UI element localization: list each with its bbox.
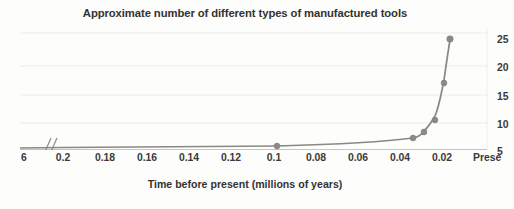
series-line-tool-types: [20, 40, 450, 148]
x-tick-label-0: 6: [21, 152, 27, 163]
y-tick-label-20: 20: [497, 62, 509, 73]
data-point-marker: [447, 36, 453, 42]
y-tick-label-15: 15: [497, 91, 509, 102]
x-tick-label-8: 0.06: [348, 152, 368, 163]
x-tick-label-1: 0.2: [56, 152, 70, 163]
data-point-marker: [274, 143, 280, 149]
y-tick-label-25: 25: [497, 34, 509, 45]
data-point-marker: [432, 117, 438, 123]
plot-area: [20, 28, 488, 150]
chart-container: Approximate number of different types of…: [0, 0, 514, 209]
y-tick-label-10: 10: [497, 119, 509, 130]
x-tick-label-5: 0.12: [221, 152, 241, 163]
chart-plot-svg: [20, 28, 488, 150]
x-axis-title: Time before present (millions of years): [0, 178, 490, 190]
x-tick-label-7: 0.08: [306, 152, 326, 163]
x-tick-label-6: 0.1: [267, 152, 281, 163]
x-tick-label-2: 0.18: [95, 152, 115, 163]
data-point-marker: [441, 80, 447, 86]
y-tick-label-5: 5: [497, 146, 503, 157]
chart-title: Approximate number of different types of…: [0, 7, 490, 19]
x-tick-label-10: 0.02: [432, 152, 452, 163]
x-tick-label-9: 0.04: [390, 152, 410, 163]
data-point-marker: [410, 135, 416, 141]
data-point-marker: [421, 129, 427, 135]
x-tick-label-4: 0.14: [179, 152, 199, 163]
x-tick-label-3: 0.16: [137, 152, 157, 163]
